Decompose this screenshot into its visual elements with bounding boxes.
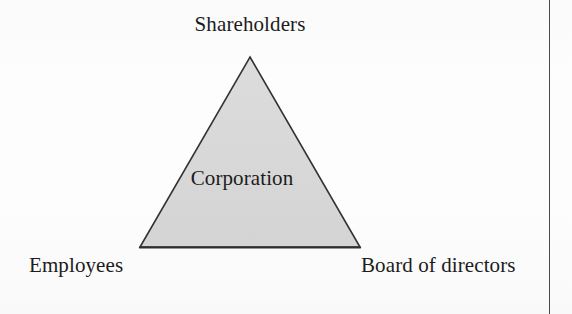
page-right-border-rule [549,0,550,314]
diagram-page: Shareholders Corporation Employees Board… [0,0,572,314]
vertex-label-shareholders: Shareholders [0,14,500,35]
vertex-label-employees: Employees [29,255,123,276]
vertex-label-board-of-directors: Board of directors [361,255,516,276]
corporation-triangle [140,57,360,247]
triangle-center-label-corporation: Corporation [0,168,484,189]
